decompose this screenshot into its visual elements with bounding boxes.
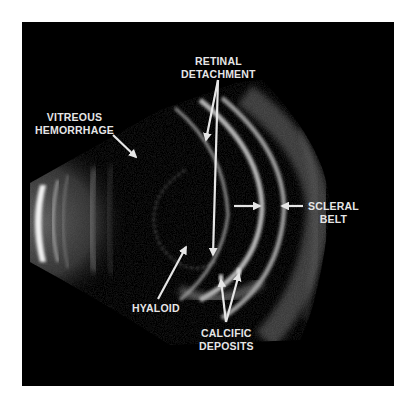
label-scleral-belt: SCLERAL BELT (308, 200, 359, 225)
label-retinal-detachment: RETINAL DETACHMENT (181, 55, 256, 80)
label-vitreous-hemorrhage: VITREOUS HEMORRHAGE (35, 111, 114, 136)
label-calcific-deposits: CALCIFIC DEPOSITS (199, 327, 254, 352)
label-hyaloid: HYALOID (132, 302, 180, 315)
ultrasound-figure: RETINAL DETACHMENT VITREOUS HEMORRHAGE S… (22, 22, 394, 386)
